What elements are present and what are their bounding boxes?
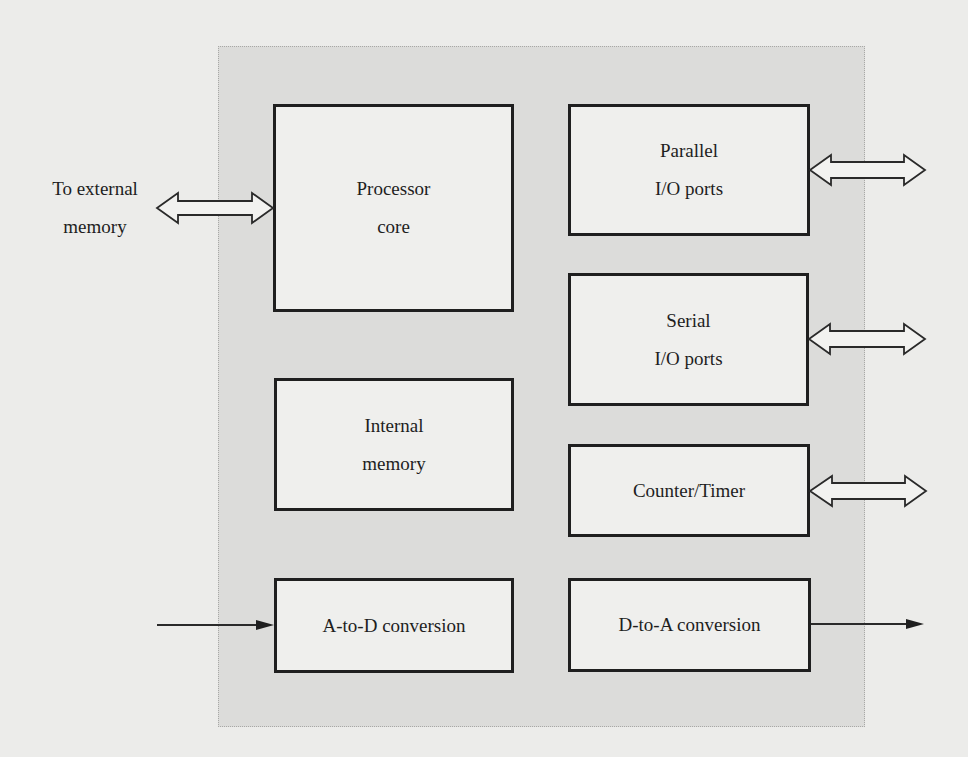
parallel-io-label: Parallel I/O ports (655, 132, 723, 208)
internal-memory-label: Internal memory (362, 407, 425, 483)
parallel-io-block: Parallel I/O ports (568, 104, 810, 236)
processor-core-block: Processor core (273, 104, 514, 312)
serial-io-label: Serial I/O ports (654, 302, 722, 378)
counter-timer-block: Counter/Timer (568, 444, 810, 537)
counter-timer-label: Counter/Timer (633, 472, 745, 510)
a-to-d-label: A-to-D conversion (323, 607, 466, 645)
internal-memory-block: Internal memory (274, 378, 514, 511)
external-memory-label: To external memory (30, 170, 160, 246)
d-to-a-label: D-to-A conversion (619, 606, 761, 644)
a-to-d-block: A-to-D conversion (274, 578, 514, 673)
d-to-a-block: D-to-A conversion (568, 578, 811, 672)
serial-io-block: Serial I/O ports (568, 273, 809, 406)
diagram-canvas: To external memory Processor core Intern… (0, 0, 968, 757)
processor-core-label: Processor core (357, 170, 431, 246)
